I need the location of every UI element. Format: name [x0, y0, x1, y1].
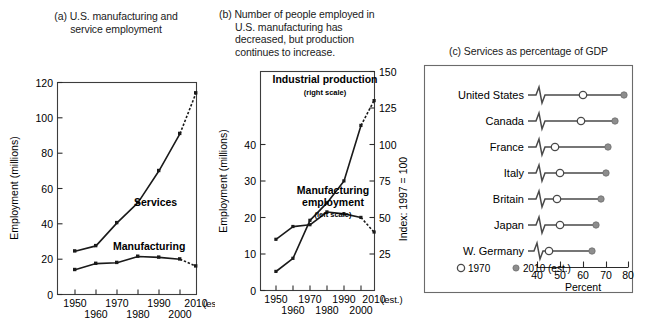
panel-a-xtick-1980: 1980 — [126, 308, 150, 320]
panel-b-y2tick-100: 100 — [379, 139, 397, 151]
panel-b-x-axis-note: (est.) — [381, 294, 403, 305]
panel-a-series-manufacturing-label: Manufacturing — [113, 240, 185, 252]
panel-c-dot-2010 — [605, 144, 611, 150]
panel-b-series-industrial-production-label: Industrial production — [273, 73, 378, 85]
panel-b-y2tick-150: 150 — [379, 66, 397, 78]
panel-a-xtick-1960: 1960 — [84, 308, 108, 320]
panel-c-category-label: Japan — [494, 219, 524, 231]
panel-c-category-label: W. Germany — [463, 245, 525, 257]
panel-b-y2tick-75: 75 — [379, 175, 391, 187]
panel-c-dot-1970 — [556, 221, 563, 228]
panel-b-y2tick-50: 50 — [379, 212, 391, 224]
panel-b-y2tick-125: 125 — [379, 102, 397, 114]
panel-c-dot-1970 — [556, 169, 563, 176]
panel-b-series-manufacturing-employment-label-line2: employment — [302, 196, 364, 208]
panel-c-row-canada: Canada — [485, 113, 618, 129]
panel-a-series-services-points — [73, 91, 197, 253]
panel-b-series-industrial-production-sublabel: (right scale) — [304, 88, 347, 97]
panel-b-caption: (b) Number of people employed in U.S. ma… — [219, 8, 409, 58]
panel-a-ytick-100: 100 — [35, 112, 53, 124]
panel-a-series-services-label: Services — [134, 196, 177, 208]
panel-c-legend: 1970 2010 (est.) — [410, 258, 647, 280]
panel-a-x-axis-note: (est.) — [203, 298, 215, 309]
panel-c-dot-1970 — [579, 91, 586, 98]
panel-a-y-axis: 120 100 80 60 40 20 0 — [35, 77, 62, 301]
panel-b-y-axis-title: Employment (millions) — [217, 129, 229, 232]
panel-a-ytick-120: 120 — [35, 77, 53, 89]
panel-c-dot-2010 — [621, 92, 627, 98]
panel-b-ytick-30: 30 — [244, 175, 256, 187]
panel-b-plot-frame — [261, 72, 375, 291]
panel-a-xtick-1990: 1990 — [147, 297, 171, 309]
panel-c-dot-1970 — [545, 247, 552, 254]
panel-c-dot-1970 — [553, 195, 560, 202]
panel-a-series-services-line — [75, 134, 180, 252]
panel-b-ytick-40: 40 — [244, 139, 256, 151]
panel-c-row-united-states: United States — [458, 87, 627, 103]
panel-b-caption-line4: continues to increase. — [219, 46, 409, 59]
panel-b-y2tick-25: 25 — [379, 248, 391, 260]
panel-c-category-label: Canada — [485, 115, 524, 127]
panel-a-us-manufacturing-service-employment: (a) U.S. manufacturing and service emplo… — [0, 0, 215, 331]
legend-label-1970: 1970 — [468, 263, 491, 274]
panel-b-xtick-2000: 2000 — [349, 304, 373, 316]
panel-b-series-manufacturing-employment-line-estimated — [361, 218, 374, 233]
panel-a-chart: 120 100 80 60 40 20 0 Employment (millio… — [0, 41, 215, 331]
panel-c-dot-2010 — [589, 248, 595, 254]
panel-a-caption-line2: service employment — [26, 23, 206, 36]
panel-c-category-label: Britain — [493, 193, 524, 205]
panel-b-chart: 0 10 20 30 40 Employment (millions) 25 5… — [215, 59, 410, 331]
panel-a-series-manufacturing-line — [75, 257, 180, 270]
panel-c-x-axis-title: Percent — [565, 281, 601, 293]
panel-c-row-w-germany: W. Germany — [463, 243, 595, 259]
panel-a-caption-label: (a) — [54, 10, 67, 22]
panel-c-dot-1970 — [577, 117, 584, 124]
panel-a-series-services-line-estimated — [180, 93, 196, 134]
legend-marker-2010 — [513, 265, 519, 271]
panel-c-dot-2010 — [593, 222, 599, 228]
panel-a-y-axis-title: Employment (millions) — [8, 136, 20, 239]
panel-c-dot-2010 — [603, 170, 609, 176]
panel-b-series-manufacturing-employment-label-line1: Manufacturing — [297, 184, 369, 196]
panel-b-xtick-1960: 1960 — [281, 304, 305, 316]
panel-b-ytick-20: 20 — [244, 212, 256, 224]
panel-a-caption-line1: U.S. manufacturing and — [70, 10, 178, 22]
panel-a-xtick-2000: 2000 — [168, 308, 192, 320]
panel-c-dot-2010 — [612, 118, 618, 124]
panel-b-left-y-axis: 0 10 20 30 40 — [244, 139, 265, 297]
legend-marker-1970 — [457, 264, 464, 271]
panel-c-caption-line1: Services as percentage of GDP — [464, 45, 608, 57]
panel-b-series-industrial-production-line-estimated — [361, 101, 374, 126]
panel-a-series-manufacturing-line-estimated — [180, 259, 196, 266]
panel-b-caption-line2: U.S. manufacturing has — [219, 21, 409, 34]
panel-c-row-italy: Italy — [504, 165, 609, 181]
legend-label-2010: 2010 (est.) — [523, 263, 571, 274]
panel-c-category-label: United States — [458, 89, 525, 101]
panel-a-ytick-80: 80 — [41, 147, 53, 159]
panel-a-caption: (a) U.S. manufacturing and service emplo… — [26, 10, 206, 35]
panel-b-caption-line3: decreased, but production — [219, 33, 409, 46]
panel-a-plot-frame — [58, 83, 197, 295]
panel-c-caption-label: (c) — [449, 45, 461, 57]
panel-c-services-pct-gdp: (c) Services as percentage of GDP United… — [410, 0, 647, 331]
panel-c-row-france: France — [490, 139, 611, 155]
panel-a-ytick-0: 0 — [47, 289, 53, 301]
panel-c-row-japan: Japan — [494, 217, 599, 233]
panel-a-ytick-40: 40 — [41, 218, 53, 230]
panel-c-row-britain: Britain — [493, 191, 604, 207]
panel-b-caption-label: (b) — [219, 8, 232, 20]
panel-a-ytick-20: 20 — [41, 253, 53, 265]
panel-c-dot-2010 — [598, 196, 604, 202]
panel-a-xtick-1950: 1950 — [63, 297, 87, 309]
panel-c-dot-1970 — [551, 143, 558, 150]
panel-b-caption-line1: Number of people employed in — [234, 8, 374, 20]
panel-b-ytick-0: 0 — [250, 285, 256, 297]
panel-b-y2-axis-title: Index: 1997 = 100 — [397, 157, 409, 242]
panel-b-manufacturing-vs-production: (b) Number of people employed in U.S. ma… — [215, 0, 410, 331]
panel-a-ytick-60: 60 — [41, 183, 53, 195]
panel-c-category-label: France — [490, 141, 524, 153]
panel-a-xtick-1970: 1970 — [105, 297, 129, 309]
panel-b-series-manufacturing-employment-sublabel: (left scale) — [314, 210, 352, 219]
panel-c-caption: (c) Services as percentage of GDP — [410, 45, 647, 58]
panel-b-xtick-1980: 1980 — [315, 304, 339, 316]
